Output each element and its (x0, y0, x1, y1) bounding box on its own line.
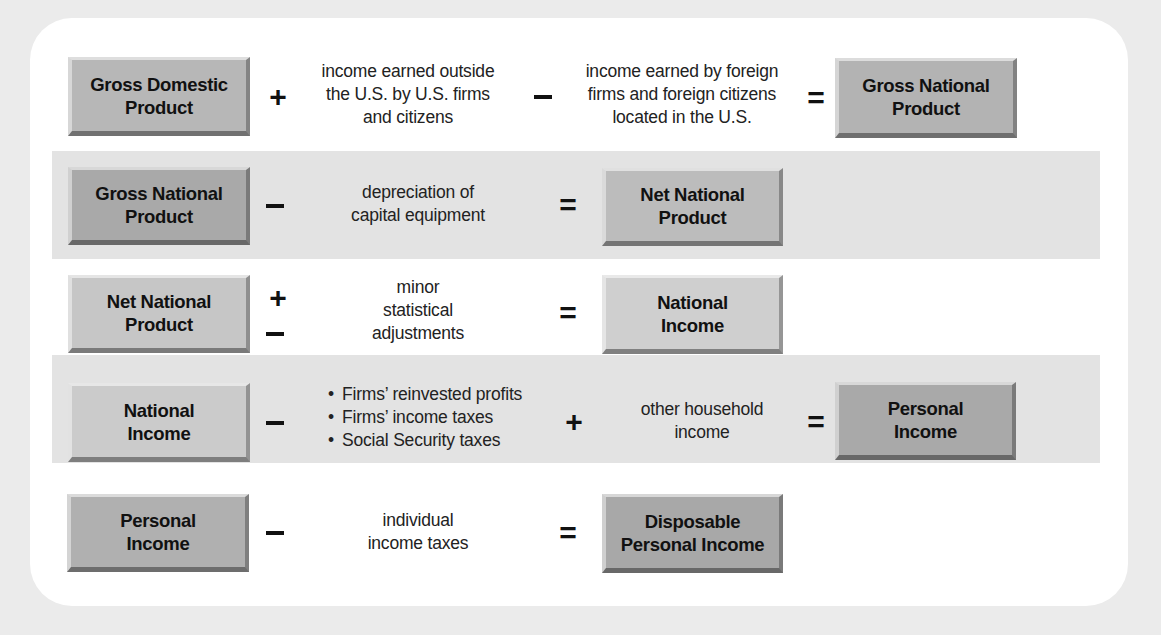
plus-operator: + (266, 82, 290, 112)
term-income-earned-by-foreign: income earned by foreign firms and forei… (562, 60, 802, 129)
equals-operator: = (556, 518, 580, 548)
deduction-social-security-taxes: Social Security taxes (328, 429, 522, 452)
term-deductions-list: Firms’ reinvested profits Firms’ income … (328, 383, 522, 452)
term-minor-statistical-adjustments: minor statistical adjustments (318, 276, 518, 345)
term-other-household-income: other household income (612, 398, 792, 444)
minus-operator (266, 332, 284, 336)
equals-operator: = (556, 298, 580, 328)
box-gross-national-product: Gross National Product (68, 167, 250, 245)
minus-operator (534, 95, 552, 99)
box-gross-national-product-result: Gross National Product (835, 58, 1017, 138)
box-national-income: National Income (68, 383, 250, 462)
deduction-reinvested-profits: Firms’ reinvested profits (328, 383, 522, 406)
box-gross-domestic-product: Gross Domestic Product (68, 57, 250, 136)
term-depreciation-capital-equipment: depreciation of capital equipment (318, 181, 518, 227)
minus-operator (266, 531, 284, 535)
box-personal-income: Personal Income (67, 494, 249, 572)
minus-operator (266, 204, 284, 208)
box-net-national-product-result: Net National Product (602, 168, 783, 246)
box-personal-income-result: Personal Income (835, 382, 1016, 460)
box-net-national-product: Net National Product (68, 275, 250, 353)
equals-operator: = (804, 83, 828, 113)
box-national-income-result: National Income (602, 275, 783, 354)
equals-operator: = (804, 407, 828, 437)
plus-operator: + (266, 283, 290, 313)
minus-operator (266, 421, 284, 425)
term-income-earned-outside-us: income earned outside the U.S. by U.S. f… (298, 60, 518, 129)
deduction-label: Firms’ reinvested profits (342, 384, 522, 404)
box-disposable-personal-income-result: Disposable Personal Income (602, 494, 783, 573)
deduction-label: Social Security taxes (342, 430, 500, 450)
term-individual-income-taxes: individual income taxes (318, 509, 518, 555)
deduction-label: Firms’ income taxes (342, 407, 493, 427)
plus-operator: + (562, 407, 586, 437)
equals-operator: = (556, 190, 580, 220)
deduction-firms-income-taxes: Firms’ income taxes (328, 406, 522, 429)
